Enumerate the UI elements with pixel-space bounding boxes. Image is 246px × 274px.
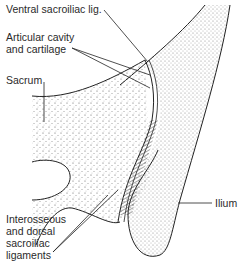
leader-ventral-lig bbox=[104, 10, 148, 62]
label-interosseous-1: Interosseous bbox=[6, 213, 66, 225]
label-ilium: Ilium bbox=[215, 197, 237, 209]
leader-articular-1 bbox=[72, 48, 150, 75]
label-interosseous-3: sacroiliac bbox=[6, 237, 50, 249]
label-ventral-sacroiliac-lig: Ventral sacroiliac lig. bbox=[6, 3, 102, 15]
label-articular-cavity: Articular cavity bbox=[6, 31, 74, 43]
label-articular-cartilage: and cartilage bbox=[6, 43, 66, 55]
label-interosseous-2: and dorsal bbox=[6, 225, 55, 237]
label-sacrum: Sacrum bbox=[6, 74, 42, 86]
label-interosseous-4: ligaments bbox=[6, 249, 51, 261]
